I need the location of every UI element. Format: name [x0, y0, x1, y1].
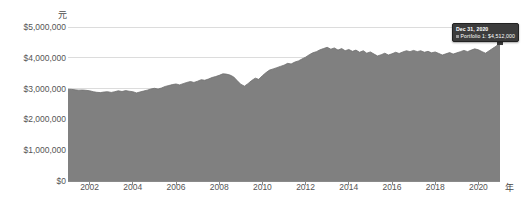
x-tick-label: 2012 — [296, 182, 315, 192]
x-tick-label: 2008 — [210, 182, 229, 192]
x-axis-unit-label: 年 — [505, 183, 514, 193]
x-tick-label: 2004 — [123, 182, 142, 192]
x-tick-label: 2018 — [426, 182, 445, 192]
x-axis-labels: 2002200420062008201020122014201620182020 — [0, 182, 530, 198]
tooltip-series-value: Portfolio 1: $4,512,000 — [461, 33, 516, 39]
tooltip-date: Dec 31, 2020 — [456, 26, 515, 32]
x-tick-label: 2014 — [339, 182, 358, 192]
x-tick-label: 2016 — [383, 182, 402, 192]
series-color-swatch-icon — [456, 35, 459, 38]
portfolio-area-chart: 元 $5,000,000$4,000,000$3,000,000$2,000,0… — [0, 0, 530, 208]
plot-area — [0, 0, 530, 208]
data-point-tooltip: Dec 31, 2020 Portfolio 1: $4,512,000 — [452, 23, 519, 42]
series-area-portfolio-1 — [68, 42, 500, 181]
x-tick-label: 2020 — [469, 182, 488, 192]
x-tick-label: 2006 — [167, 182, 186, 192]
x-tick-label: 2002 — [80, 182, 99, 192]
x-tick-label: 2010 — [253, 182, 272, 192]
tooltip-series-row: Portfolio 1: $4,512,000 — [456, 33, 515, 39]
